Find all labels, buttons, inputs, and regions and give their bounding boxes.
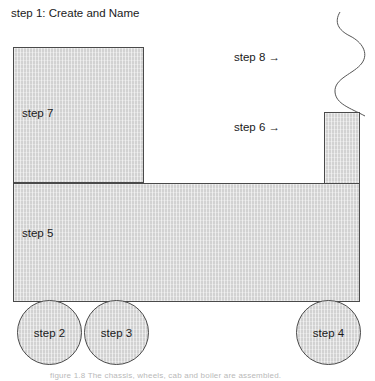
callout-smoke: step 8 → <box>234 52 280 64</box>
callout-chimney: step 6 → <box>234 122 280 134</box>
shape-wheel-middle: step 3 <box>84 300 149 365</box>
figure-title: step 1: Create and Name <box>11 8 140 20</box>
shape-wheel-middle-label: step 3 <box>85 327 148 339</box>
shape-cab-label: step 7 <box>22 108 53 120</box>
shape-chassis <box>13 183 360 302</box>
shape-wheel-right: step 4 <box>296 300 361 365</box>
figure-bottom-caption: figure 1.8 The chassis, wheels, cab and … <box>50 371 281 380</box>
figure-canvas: step 1: Create and Name step 7 step 5 st… <box>0 0 375 381</box>
shape-wheel-left-label: step 2 <box>18 327 81 339</box>
shape-chassis-label: step 5 <box>22 228 53 240</box>
smoke-squiggle-icon <box>310 8 372 118</box>
shape-wheel-right-label: step 4 <box>297 327 360 339</box>
shape-wheel-left: step 2 <box>17 300 82 365</box>
shape-chimney <box>324 112 360 184</box>
